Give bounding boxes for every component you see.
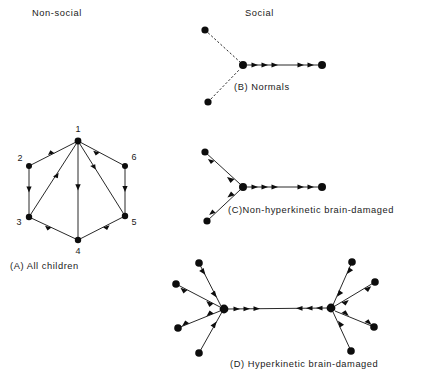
panel-d-edges-right (333, 262, 375, 351)
node-c-terminal (318, 183, 326, 191)
arrowhead-d-r1b (347, 267, 353, 274)
arrowhead-1-5 (90, 164, 96, 169)
arrowhead-b-5 (308, 63, 315, 68)
node-4 (75, 237, 81, 243)
node-label-5: 5 (131, 217, 136, 227)
panel-c-caption: (C)Non-hyperkinetic brain-damaged (228, 205, 394, 215)
node-d-left-leaf-3 (174, 324, 182, 332)
edge-3-4 (29, 217, 78, 240)
sociogram-svg: Non-social Social (0, 0, 429, 380)
column-header-social: Social (245, 8, 274, 18)
panel-d-edges-left (176, 263, 222, 353)
node-d-left-leaf-2 (172, 280, 180, 288)
node-label-6: 6 (131, 152, 136, 162)
arrowhead-d-r4 (338, 321, 344, 328)
node-c-hub (239, 183, 247, 191)
arrowhead-d-b4 (296, 306, 303, 311)
arrowhead-d-l1b (199, 268, 205, 275)
edge-1-3 (29, 141, 78, 217)
arrowhead-1-3 (53, 173, 59, 179)
node-d-hub-left (220, 305, 229, 314)
arrowhead-6-5 (122, 186, 127, 192)
arrowhead-c-4 (298, 185, 305, 190)
node-2 (26, 163, 32, 169)
arrowhead-c-1 (252, 185, 259, 190)
arrowhead-1-4 (75, 184, 80, 190)
arrowhead-b-2 (262, 63, 269, 68)
panel-d-hyperkinetic: (D) Hyperkinetic brain-damaged (172, 258, 379, 369)
node-b-terminal (318, 61, 326, 69)
node-b-leaf-bottom (204, 98, 211, 105)
arrowhead-d-b2 (244, 306, 251, 311)
node-c-leaf-top (201, 148, 208, 155)
node-d-right-leaf-1 (348, 258, 356, 266)
arrowhead-d-r2b (364, 286, 371, 292)
node-d-left-leaf-1 (195, 259, 203, 267)
arrowhead-b-1 (252, 63, 259, 68)
node-label-3: 3 (16, 217, 21, 227)
edge-1-6 (78, 141, 125, 166)
edge-1-5 (78, 141, 125, 216)
panel-a-caption: (A) All children (10, 261, 79, 271)
edge-b-leaf-top (205, 30, 240, 62)
panel-d-caption: (D) Hyperkinetic brain-damaged (230, 359, 378, 369)
arrowhead-c-5 (308, 185, 315, 190)
node-label-4: 4 (75, 246, 80, 256)
node-6 (122, 163, 128, 169)
arrowhead-1-6 (93, 151, 100, 156)
node-d-left-leaf-4 (195, 349, 203, 357)
arrowhead-d-b6 (316, 306, 323, 311)
node-3 (26, 214, 32, 220)
edge-c-leaf-top (205, 152, 240, 184)
column-header-non-social: Non-social (32, 8, 82, 18)
arrowhead-c-3 (272, 185, 279, 190)
arrowhead-d-b5 (306, 306, 313, 311)
arrowhead-2-3 (26, 187, 31, 193)
arrowhead-b-3 (272, 63, 279, 68)
node-b-leaf-top (201, 26, 208, 33)
panel-d-bridge (228, 306, 327, 312)
panel-b-caption: (B) Normals (234, 82, 290, 92)
panel-a-edges (26, 141, 127, 240)
arrowhead-c-2 (262, 185, 269, 190)
node-d-hub-right (327, 304, 336, 313)
arrowhead-b-4 (298, 63, 305, 68)
node-c-leaf-bottom (203, 217, 210, 224)
node-d-right-leaf-2 (371, 278, 379, 286)
edge-5-4 (78, 216, 125, 240)
panel-b-normals: (B) Normals (201, 26, 326, 105)
sociogram-figure: Non-social Social (0, 0, 429, 380)
arrowhead-d-l1 (211, 291, 217, 298)
node-5 (122, 213, 128, 219)
node-b-hub (239, 61, 247, 69)
node-label-1: 1 (75, 124, 80, 134)
panel-a-all-children: 1 2 3 4 5 6 (A) All children (10, 124, 137, 271)
arrowhead-d-r2 (342, 300, 349, 306)
arrowhead-d-b1 (234, 307, 241, 312)
node-1 (75, 138, 82, 145)
panel-a-nodes (26, 138, 128, 244)
edge-d-right-4 (333, 312, 351, 351)
panel-c-non-hyperkinetic: (C)Non-hyperkinetic brain-damaged (201, 148, 394, 224)
node-label-2: 2 (17, 153, 22, 163)
arrowhead-d-l4 (211, 321, 217, 328)
node-d-right-leaf-4 (347, 347, 355, 355)
arrowhead-d-b3 (254, 306, 261, 311)
node-d-right-leaf-3 (370, 323, 378, 331)
